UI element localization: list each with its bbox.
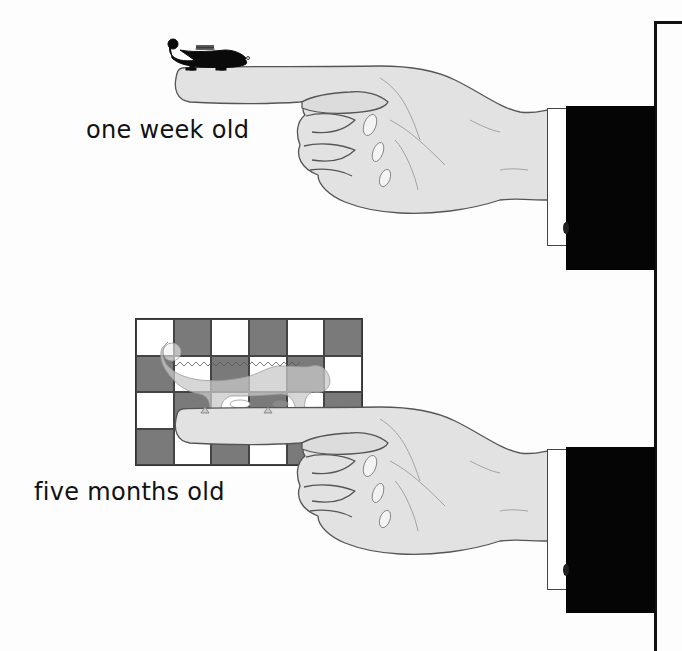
cuff-button-icon xyxy=(563,564,569,576)
chameleon-camouflaged-icon xyxy=(161,342,330,410)
illustration: one week old xyxy=(0,0,682,651)
jacket-sleeve xyxy=(566,447,655,613)
caption-five-months-old: five months old xyxy=(34,478,225,506)
